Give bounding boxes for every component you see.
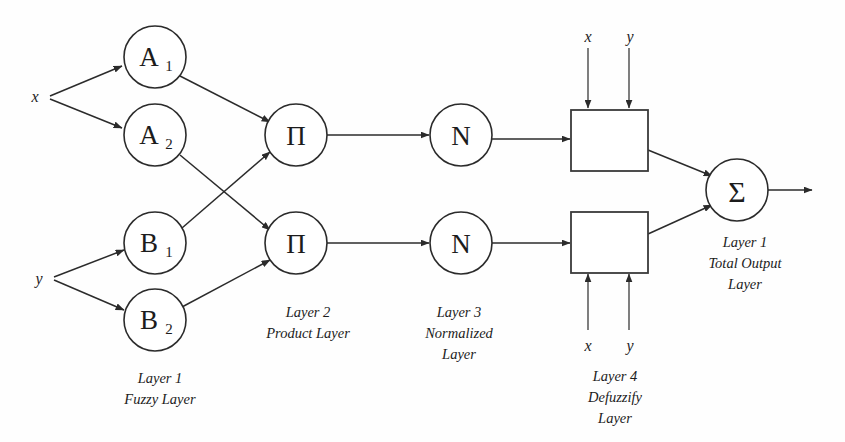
- edge-defuzz-bottom-to-sum: [648, 205, 712, 234]
- caption-layer4-defuzzify: Layer 4 Defuzzify Layer: [587, 368, 643, 426]
- caption-layer3-line2: Normalized: [424, 325, 493, 341]
- caption-layer2-line1: Layer 2: [285, 304, 331, 320]
- normalized-layer-group: N N: [430, 104, 492, 274]
- node-normalized-top-label: N: [451, 121, 471, 151]
- node-defuzzify-top[interactable]: [571, 110, 648, 171]
- edge-x-to-A2: [50, 99, 122, 128]
- node-B1-label: B: [140, 228, 158, 258]
- node-A1-subscript: 1: [165, 58, 173, 74]
- caption-layer5-total-output: Layer 1 Total Output Layer: [708, 234, 782, 292]
- node-normalized-bottom[interactable]: N: [430, 212, 492, 274]
- node-product-top[interactable]: Π: [265, 104, 327, 166]
- node-A1-label: A: [139, 42, 159, 72]
- node-B2-label: B: [140, 305, 158, 335]
- caption-layer2-line2: Product Layer: [265, 325, 350, 341]
- caption-layer5-line3: Layer: [727, 276, 762, 292]
- product-layer-group: Π Π: [265, 104, 327, 274]
- caption-layer3-line1: Layer 3: [436, 304, 482, 320]
- node-product-bottom-label: Π: [286, 229, 306, 259]
- input-edges-group: [50, 66, 124, 310]
- defuzz-bottom-input-label-y: y: [624, 337, 634, 355]
- node-product-bottom[interactable]: Π: [265, 212, 327, 274]
- edge-y-to-B1: [54, 250, 124, 277]
- node-B1-subscript: 1: [165, 244, 173, 260]
- anfis-diagram: x y A 1 A 2 B 1 B 2: [0, 0, 845, 442]
- node-B2[interactable]: B 2: [124, 289, 186, 351]
- anfis-diagram-canvas: x y A 1 A 2 B 1 B 2: [0, 0, 845, 442]
- edge-B2-to-prod-bottom: [182, 260, 270, 307]
- node-A2[interactable]: A 2: [124, 104, 186, 166]
- node-normalized-bottom-label: N: [451, 229, 471, 259]
- node-normalized-top[interactable]: N: [430, 104, 492, 166]
- caption-layer1-line1: Layer 1: [137, 370, 183, 386]
- node-A2-subscript: 2: [165, 136, 173, 152]
- caption-layer5-line2: Total Output: [708, 255, 782, 271]
- product-to-normalized-edges-group: [327, 135, 429, 243]
- defuzz-top-input-label-y: y: [624, 28, 634, 46]
- node-defuzzify-bottom[interactable]: [571, 212, 648, 273]
- defuzz-top-input-arrows-group: [588, 48, 629, 108]
- normalized-to-defuzzify-edges-group: [492, 139, 570, 243]
- caption-layer5-line1: Layer 1: [722, 234, 768, 250]
- edge-B1-to-prod-top: [182, 152, 270, 228]
- defuzz-top-input-label-x: x: [583, 28, 591, 45]
- caption-layer4-line1: Layer 4: [592, 368, 638, 384]
- caption-layer1-fuzzy: Layer 1 Fuzzy Layer: [123, 370, 196, 407]
- node-A2-label: A: [139, 120, 159, 150]
- node-B1[interactable]: B 1: [124, 212, 186, 274]
- defuzzify-layer-group: x y x y: [571, 28, 648, 355]
- caption-layer4-line2: Defuzzify: [587, 389, 643, 405]
- caption-layer4-line3: Layer: [597, 410, 632, 426]
- node-total-output[interactable]: Σ: [706, 159, 768, 221]
- defuzzify-to-sum-edges-group: [648, 150, 712, 234]
- input-label-y: y: [33, 270, 43, 288]
- fuzzy-layer-group: A 1 A 2 B 1 B 2: [124, 26, 186, 351]
- node-total-output-label: Σ: [728, 175, 745, 208]
- caption-layer3-normalized: Layer 3 Normalized Layer: [424, 304, 493, 362]
- node-A1[interactable]: A 1: [124, 26, 186, 88]
- edge-A1-to-prod-top: [180, 76, 270, 122]
- defuzz-bottom-input-label-x: x: [583, 337, 591, 354]
- node-product-top-label: Π: [286, 121, 306, 151]
- edge-y-to-B2: [54, 280, 124, 310]
- edge-x-to-A1: [50, 66, 122, 96]
- caption-layer1-line2: Fuzzy Layer: [123, 391, 196, 407]
- input-label-x: x: [30, 88, 38, 105]
- defuzz-bottom-input-arrows-group: [588, 274, 629, 330]
- caption-layer3-line3: Layer: [441, 346, 476, 362]
- fuzzy-to-product-edges-group: [180, 76, 270, 307]
- caption-layer2-product: Layer 2 Product Layer: [265, 304, 350, 341]
- edge-defuzz-top-to-sum: [648, 150, 712, 176]
- node-B2-subscript: 2: [165, 321, 173, 337]
